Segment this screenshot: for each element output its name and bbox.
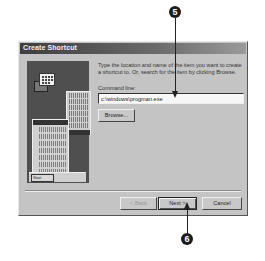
back-button[interactable]: < Back	[120, 197, 157, 210]
browse-button[interactable]: Browse...	[98, 109, 135, 122]
title-bar: Create Shortcut	[20, 43, 246, 54]
callout-6-badge: 6	[181, 233, 193, 245]
callout-5-line	[175, 18, 176, 92]
calendar-icon	[39, 73, 55, 86]
callout-5-arrow-icon	[172, 91, 178, 98]
callout-6-line	[187, 208, 188, 233]
create-shortcut-dialog: Create Shortcut Start Type the location …	[18, 41, 248, 216]
cancel-button[interactable]: Cancel	[202, 197, 242, 210]
illustration-submenu	[66, 91, 91, 135]
illustration-taskbar: Start	[29, 172, 86, 182]
instruction-text: Type the location and name of the item y…	[98, 62, 246, 76]
dialog-title: Create Shortcut	[23, 44, 77, 51]
callout-5-badge: 5	[169, 6, 181, 18]
next-button[interactable]: Next >	[158, 197, 197, 210]
button-separator	[25, 190, 241, 192]
illustration-start-menu	[32, 119, 69, 173]
illustration-start-button: Start	[31, 174, 54, 182]
wizard-illustration: Start	[27, 61, 89, 183]
command-line-label: Command line:	[98, 85, 136, 91]
command-line-input[interactable]	[98, 93, 244, 104]
